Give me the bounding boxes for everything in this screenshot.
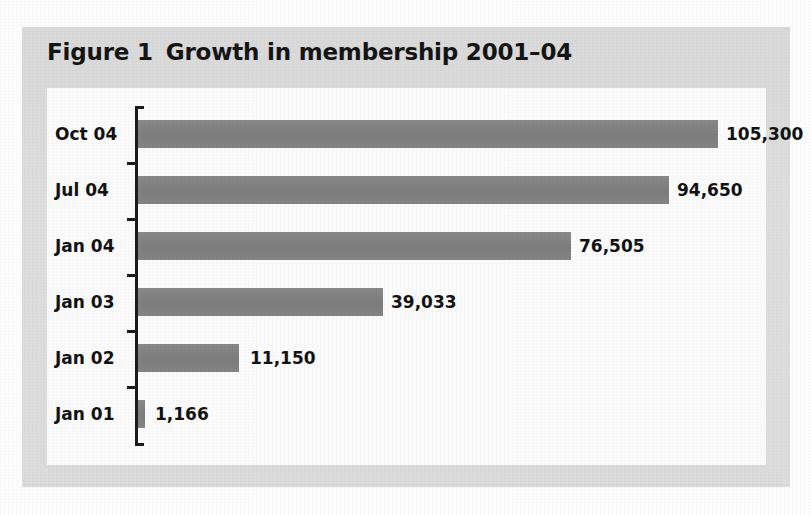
bar-value-jan-02: 11,150 [250,348,316,368]
bar-jan-01[interactable] [138,400,145,428]
bar-jan-02[interactable] [138,344,239,372]
bar-jul-04[interactable] [138,176,669,204]
category-label-jan-03: Jan 03 [55,292,67,312]
figure-title-text: Growth in membership 2001–04 [166,39,572,65]
bar-value-jan-01: 1,166 [155,404,209,424]
category-label-jul-04: Jul 04 [55,180,67,200]
bar-value-jul-04: 94,650 [677,180,743,200]
bar-value-jan-04: 76,505 [579,236,645,256]
figure-card: Figure 1Growth in membership 2001–04 Oct… [22,27,790,487]
bar-value-oct-04: 105,300 [726,124,803,144]
bar-row: Jan 02 11,150 [47,330,766,386]
bar-oct-04[interactable] [138,120,718,148]
bar-row: Jan 01 1,166 [47,386,766,442]
y-axis-cap-bottom [135,443,144,446]
category-label-jan-01: Jan 01 [55,404,67,424]
figure-title: Figure 1Growth in membership 2001–04 [47,39,572,65]
scanned-page: Figure 1Growth in membership 2001–04 Oct… [0,0,811,515]
bar-chart: Oct 04 105,300 Jul 04 94,650 Jan 04 76,5… [47,88,766,465]
bar-row: Jan 04 76,505 [47,218,766,274]
bar-row: Oct 04 105,300 [47,106,766,162]
bar-value-jan-03: 39,033 [391,292,457,312]
category-label-jan-02: Jan 02 [55,348,67,368]
figure-number-label: Figure 1 [47,39,153,65]
bar-jan-03[interactable] [138,288,383,316]
chart-plot-panel: Oct 04 105,300 Jul 04 94,650 Jan 04 76,5… [47,88,766,465]
category-label-oct-04: Oct 04 [55,124,67,144]
bar-row: Jul 04 94,650 [47,162,766,218]
bar-row: Jan 03 39,033 [47,274,766,330]
category-label-jan-04: Jan 04 [55,236,67,256]
bar-jan-04[interactable] [138,232,571,260]
